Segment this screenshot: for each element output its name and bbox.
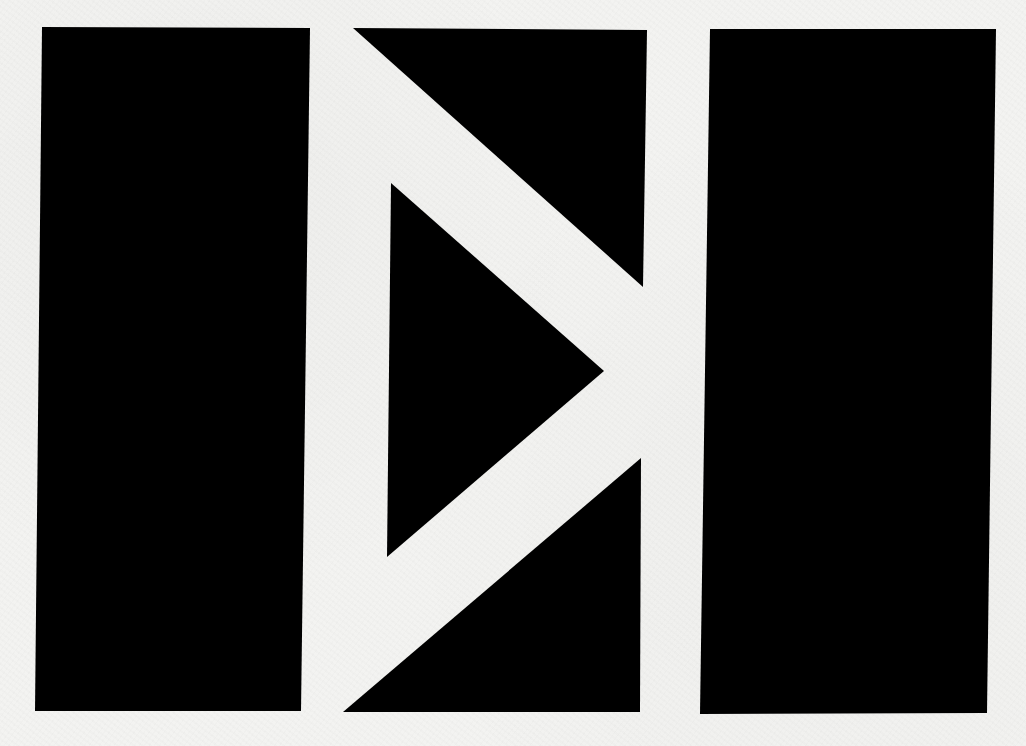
artwork-canvas bbox=[0, 0, 1026, 746]
artwork-svg bbox=[0, 0, 1026, 746]
right-bar bbox=[700, 29, 996, 714]
left-bar bbox=[35, 27, 310, 711]
play-triangle-icon bbox=[387, 183, 604, 557]
